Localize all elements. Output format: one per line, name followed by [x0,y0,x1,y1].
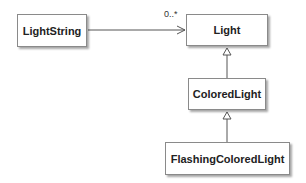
class-box-light[interactable]: Light [186,14,268,46]
generalization-triangle-icon [223,48,231,55]
class-name: ColoredLight [193,88,261,100]
generalization-triangle-icon [223,112,231,119]
uml-diagram-canvas: 0..* LightString Light ColoredLight Flas… [0,0,306,183]
multiplicity-label: 0..* [164,9,178,19]
class-box-flashingcoloredlight[interactable]: FlashingColoredLight [165,142,290,175]
class-name: FlashingColoredLight [171,153,285,165]
class-name: Light [214,24,241,36]
class-box-coloredlight[interactable]: ColoredLight [188,78,266,110]
class-box-lightstring[interactable]: LightString [17,14,87,47]
class-name: LightString [23,25,82,37]
